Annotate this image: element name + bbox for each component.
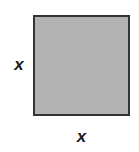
geometry-figure: x x	[0, 0, 139, 152]
side-label-bottom: x	[33, 128, 130, 145]
side-label-left: x	[11, 56, 27, 73]
square-shape	[33, 15, 130, 116]
